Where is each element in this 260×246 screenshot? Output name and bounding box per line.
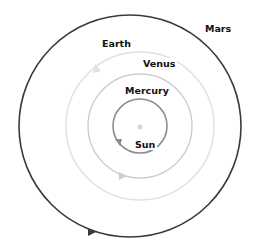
earth-label: Earth: [100, 38, 133, 49]
mars-label: Mars: [203, 23, 233, 34]
mercury-label: Mercury: [123, 85, 171, 96]
sun-label: Sun: [133, 139, 157, 150]
orbit-diagram: Mars Earth Venus Mercury Sun: [0, 0, 260, 246]
orbits-canvas: [0, 0, 260, 246]
sun-dot: [138, 125, 143, 130]
venus-direction-arrow-icon: [119, 172, 127, 180]
mars-direction-arrow-icon: [88, 228, 96, 236]
venus-label: Venus: [141, 58, 177, 69]
